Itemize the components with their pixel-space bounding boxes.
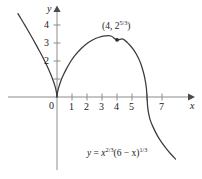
- x-tick-label-5: 5: [129, 102, 134, 112]
- equation-lhs: y: [87, 148, 91, 158]
- y-tick-label-2: 2: [44, 56, 49, 66]
- graph-figure: 0 1 2 3 4 5 7 2 3 4 y x (4, 25/3) y = x2…: [0, 0, 202, 179]
- equation-equals: =: [94, 148, 99, 158]
- maximum-point-label-suffix: ): [127, 21, 130, 31]
- y-tick-label-4: 4: [44, 20, 49, 30]
- equation-label: y = x2/3(6 − x)1/3: [87, 148, 147, 159]
- equation-exponent2: 1/3: [139, 146, 147, 153]
- x-tick-label-1: 1: [69, 102, 74, 112]
- x-tick-label-2: 2: [84, 102, 89, 112]
- maximum-point-label-prefix: (4, 2: [102, 21, 119, 31]
- y-axis-arrow-icon: [53, 6, 60, 13]
- x-tick-label-4: 4: [114, 102, 119, 112]
- y-axis-label: y: [47, 4, 51, 14]
- maximum-point-marker: [115, 38, 119, 42]
- equation-middle: (6 − x): [113, 148, 139, 158]
- x-tick-label-3: 3: [99, 102, 104, 112]
- x-axis-label: x: [190, 101, 194, 111]
- maximum-point-label: (4, 25/3): [102, 21, 131, 32]
- curve-left-branch: [18, 14, 57, 97]
- x-tick-label-7: 7: [159, 102, 164, 112]
- y-tick-label-3: 3: [44, 38, 49, 48]
- origin-tick-label: 0: [49, 101, 54, 111]
